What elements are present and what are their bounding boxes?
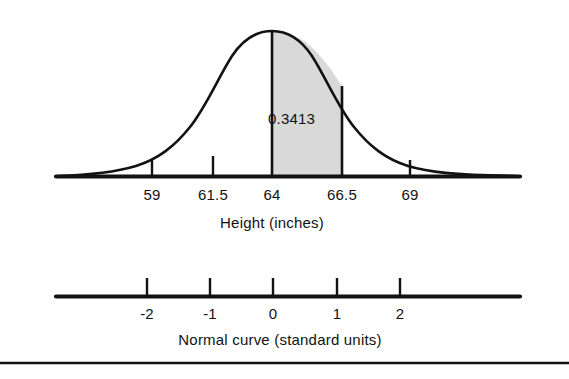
height-tick-label-64: 64 — [263, 186, 280, 203]
height-tick-label-59: 59 — [143, 186, 160, 203]
standard-tick-label-2: 2 — [396, 305, 405, 322]
height-tick-label-69: 69 — [401, 186, 418, 203]
figure-graphics — [0, 0, 569, 379]
standard-axis-title: Normal curve (standard units) — [178, 331, 381, 348]
shaded-area-value-label: 0.3413 — [268, 110, 315, 127]
height-tick-label-61-5: 61.5 — [198, 186, 228, 203]
shaded-area-region — [272, 31, 342, 176]
standard-tick-label-minus-2: -2 — [140, 305, 154, 322]
standard-tick-label-1: 1 — [333, 305, 342, 322]
height-axis-title: Height (inches) — [220, 214, 324, 231]
height-tick-label-66-5: 66.5 — [327, 186, 357, 203]
standard-tick-label-0: 0 — [269, 305, 278, 322]
normal-curve-figure: 59 61.5 64 66.5 69 Height (inches) 0.341… — [0, 0, 569, 379]
standard-tick-label-minus-1: -1 — [203, 305, 217, 322]
